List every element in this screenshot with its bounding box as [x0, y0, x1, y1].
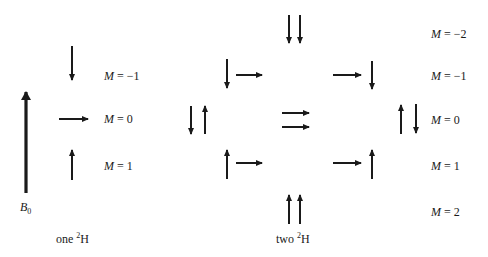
m-label: M = 1 — [431, 160, 460, 172]
one-deuteron-caption: one 2H — [56, 232, 89, 245]
arrow-layer — [0, 0, 488, 257]
m-label: M = −1 — [104, 70, 140, 82]
spin-state-diagram: B0 M = −1 M = 0 M = 1 one 2H M = −2 M = … — [0, 0, 488, 257]
b0-subscript: 0 — [27, 207, 31, 216]
b0-label: B0 — [20, 201, 31, 216]
m-label: M = −2 — [431, 28, 467, 40]
m-label: M = 0 — [104, 113, 133, 125]
m-label: M = 0 — [431, 114, 460, 126]
m-label: M = −1 — [431, 70, 467, 82]
m-label: M = 1 — [104, 160, 133, 172]
m-label: M = 2 — [431, 206, 460, 218]
two-deuterons-caption: two 2H — [276, 232, 310, 245]
